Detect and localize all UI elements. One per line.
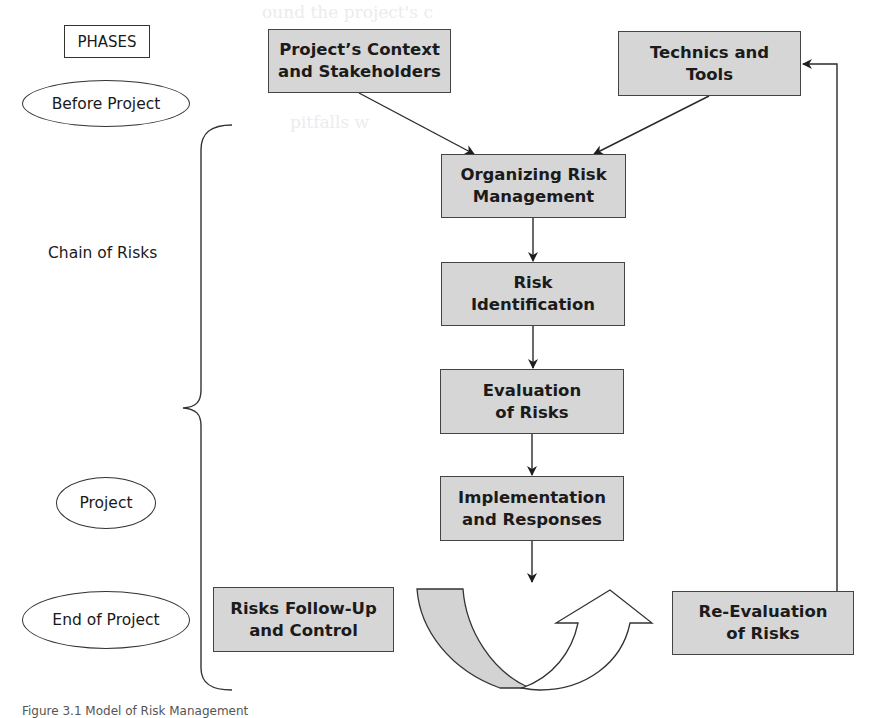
node-line: and Stakeholders xyxy=(278,61,441,83)
edge-reevaluation-technics xyxy=(803,64,837,591)
cycle-arrow-down-band xyxy=(417,589,530,688)
node-evaluation-of-risks: Evaluationof Risks xyxy=(440,369,624,434)
node-line: Tools xyxy=(650,64,769,86)
node-line: Identification xyxy=(471,294,595,316)
node-line: Risk xyxy=(471,272,595,294)
node-line: of Risks xyxy=(698,623,827,645)
node-line: Re-Evaluation xyxy=(698,601,827,623)
node-line: of Risks xyxy=(483,402,581,424)
phase-project: Project xyxy=(56,477,156,529)
node-technics-tools: Technics andTools xyxy=(618,31,801,96)
node-risks-follow-up-control: Risks Follow-Upand Control xyxy=(213,587,394,652)
node-line: Technics and xyxy=(650,42,769,64)
phase-label: Before Project xyxy=(52,95,161,113)
node-re-evaluation-of-risks: Re-Evaluationof Risks xyxy=(672,591,854,655)
phase-end-of-project: End of Project xyxy=(22,591,190,649)
node-line: and Control xyxy=(230,620,377,642)
node-line: Risks Follow-Up xyxy=(230,598,377,620)
node-organizing-risk-management: Organizing RiskManagement xyxy=(441,154,626,218)
node-line: Implementation xyxy=(458,487,606,509)
phase-before-project: Before Project xyxy=(22,80,190,127)
phases-legend-box: PHASES xyxy=(64,25,150,58)
node-implementation-responses: Implementationand Responses xyxy=(440,476,624,541)
cycle-arrow-up xyxy=(522,590,652,690)
node-line: Evaluation xyxy=(483,380,581,402)
edge-context-organizing xyxy=(359,93,474,154)
node-risk-identification: RiskIdentification xyxy=(441,262,625,326)
node-line: and Responses xyxy=(458,509,606,531)
node-line: Project’s Context xyxy=(278,39,441,61)
figure-caption: Figure 3.1 Model of Risk Management xyxy=(22,704,248,718)
phase-label: Project xyxy=(79,494,132,512)
phase-label: End of Project xyxy=(52,611,159,629)
node-project-context: Project’s Contextand Stakeholders xyxy=(268,29,451,93)
node-line: Management xyxy=(460,186,606,208)
phase-chain-of-risks: Chain of Risks xyxy=(48,244,157,262)
edge-technics-organizing xyxy=(594,96,709,154)
node-line: Organizing Risk xyxy=(460,164,606,186)
phases-legend-label: PHASES xyxy=(77,33,136,51)
